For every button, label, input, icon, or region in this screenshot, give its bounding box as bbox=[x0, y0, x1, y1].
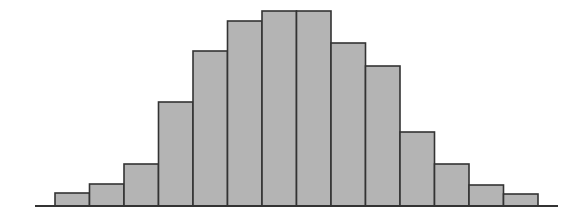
histogram-bar bbox=[297, 11, 332, 206]
histogram-chart bbox=[0, 0, 588, 219]
histogram-bar bbox=[124, 164, 159, 206]
histogram-bar bbox=[193, 51, 228, 206]
histogram-bar bbox=[400, 132, 435, 206]
histogram-bar bbox=[504, 194, 539, 206]
histogram-bar bbox=[228, 21, 263, 206]
histogram-bars bbox=[55, 11, 538, 206]
histogram-bar bbox=[435, 164, 470, 206]
histogram-bar bbox=[469, 185, 504, 206]
histogram-bar bbox=[366, 66, 401, 206]
histogram-bar bbox=[262, 11, 297, 206]
histogram-bar bbox=[331, 43, 366, 206]
histogram-bar bbox=[90, 184, 125, 206]
histogram-bar bbox=[159, 102, 194, 206]
histogram-bar bbox=[55, 193, 90, 206]
